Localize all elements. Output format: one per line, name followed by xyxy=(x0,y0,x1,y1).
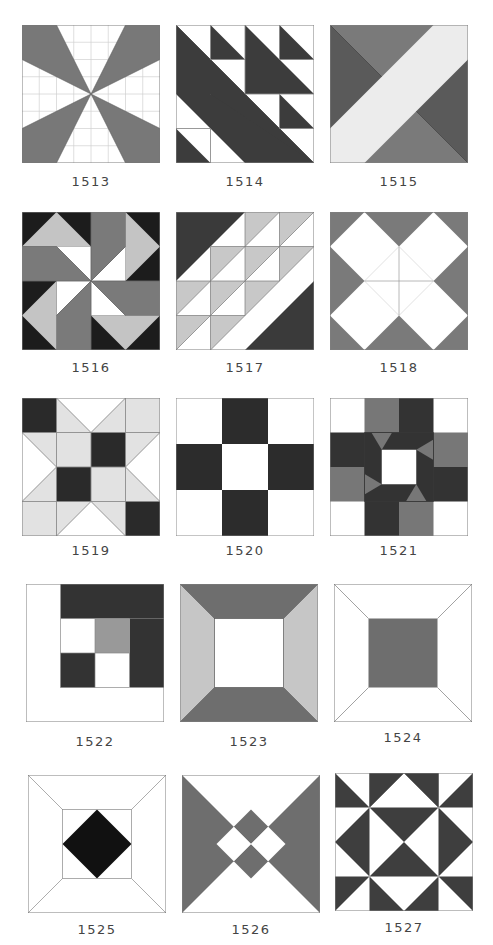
diagonal-band-pattern xyxy=(330,25,468,163)
block-label: 1527 xyxy=(335,920,473,935)
pinwheel-star-pattern xyxy=(22,25,160,163)
diamond-cross-pattern xyxy=(330,212,468,350)
quilt-block-1517 xyxy=(176,212,314,350)
triangle-grid-pattern xyxy=(176,212,314,350)
quilt-block-1521 xyxy=(330,398,468,536)
quilt-block-1525 xyxy=(28,775,166,913)
block-label: 1521 xyxy=(330,543,468,558)
quilt-block-1526 xyxy=(182,775,320,913)
block-label: 1522 xyxy=(26,734,164,749)
nine-patch-frame-pattern xyxy=(176,398,314,536)
diamond-in-square-pattern xyxy=(28,775,166,913)
hourglass-star-pattern xyxy=(335,773,473,911)
block-label: 1524 xyxy=(334,730,472,745)
framed-square-pattern xyxy=(180,584,318,722)
log-cabin-corner-pattern xyxy=(26,584,164,722)
quilt-block-1518 xyxy=(330,212,468,350)
bowtie-pattern xyxy=(182,775,320,913)
quilt-block-1523 xyxy=(180,584,318,722)
diagonal-triangles-pattern xyxy=(176,25,314,163)
block-label: 1526 xyxy=(182,922,320,937)
block-label: 1515 xyxy=(330,174,468,189)
quilt-block-1527 xyxy=(335,773,473,911)
quilt-block-1519 xyxy=(22,398,160,536)
block-label: 1525 xyxy=(28,922,166,937)
block-label: 1518 xyxy=(330,360,468,375)
quilt-block-1522 xyxy=(26,584,164,722)
block-label: 1513 xyxy=(22,174,160,189)
quilt-block-1524 xyxy=(334,584,472,722)
quilt-block-1514 xyxy=(176,25,314,163)
quilt-block-1516 xyxy=(22,212,160,350)
center-square-pattern xyxy=(334,584,472,722)
star-checker-pattern xyxy=(22,398,160,536)
ring-pattern xyxy=(330,398,468,536)
block-label: 1516 xyxy=(22,360,160,375)
block-label: 1520 xyxy=(176,543,314,558)
block-label: 1519 xyxy=(22,543,160,558)
quilt-block-1520 xyxy=(176,398,314,536)
quilt-block-1513 xyxy=(22,25,160,163)
block-label: 1514 xyxy=(176,174,314,189)
block-label: 1517 xyxy=(176,360,314,375)
quilt-block-1515 xyxy=(330,25,468,163)
pinwheel-pattern xyxy=(22,212,160,350)
block-label: 1523 xyxy=(180,734,318,749)
